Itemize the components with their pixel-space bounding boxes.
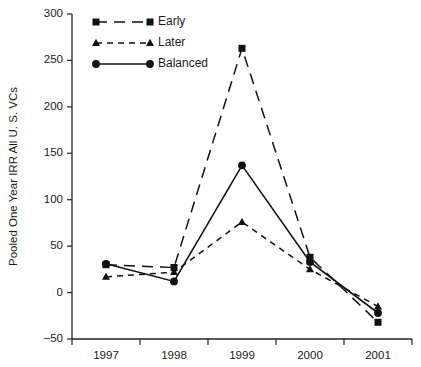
y-tick-label: 150	[44, 146, 63, 158]
data-point-marker	[239, 45, 246, 52]
legend-item-later: Later	[92, 35, 185, 49]
data-point-marker	[92, 60, 100, 68]
chart-container: −50050100150200250300 199719981999200020…	[0, 0, 421, 367]
legend-label: Later	[158, 35, 185, 49]
data-point-marker	[102, 260, 110, 268]
chart-legend: EarlyLaterBalanced	[92, 14, 208, 70]
x-tick-label: 2000	[297, 349, 323, 361]
series-line-early	[106, 48, 378, 322]
y-tick-label: 0	[57, 286, 63, 298]
data-point-marker	[93, 19, 100, 26]
series-later	[102, 218, 382, 310]
y-tick-label: 50	[50, 239, 63, 251]
x-tick-label: 1997	[93, 349, 119, 361]
axes: −50050100150200250300 199719981999200020…	[43, 7, 412, 361]
x-axis-ticks: 19971998199920002001	[72, 339, 412, 361]
y-tick-label: −50	[43, 332, 63, 344]
x-tick-label: 1998	[161, 349, 187, 361]
y-tick-label: 250	[44, 53, 63, 65]
data-point-marker	[238, 218, 246, 225]
data-point-marker	[306, 258, 314, 266]
data-point-marker	[306, 265, 314, 272]
data-point-marker	[147, 19, 154, 26]
y-tick-label: 200	[44, 100, 63, 112]
y-axis-ticks: −50050100150200250300	[43, 7, 72, 344]
series-balanced	[102, 161, 382, 316]
x-tick-label: 1999	[229, 349, 255, 361]
data-point-marker	[238, 161, 246, 169]
legend-label: Balanced	[158, 56, 208, 70]
y-tick-label: 300	[44, 7, 63, 19]
y-axis-title: Pooled One Year IRR All U. S. VCs	[7, 87, 19, 266]
series-line-later	[106, 222, 378, 307]
legend-label: Early	[158, 14, 185, 28]
y-axis-title-label: Pooled One Year IRR All U. S. VCs	[7, 87, 19, 266]
y-tick-label: 100	[44, 193, 63, 205]
legend-item-balanced: Balanced	[92, 56, 208, 70]
line-chart: −50050100150200250300 199719981999200020…	[0, 0, 421, 367]
data-series	[102, 45, 382, 326]
data-point-marker	[374, 309, 382, 317]
series-line-balanced	[106, 165, 378, 313]
data-point-marker	[375, 319, 382, 326]
legend-item-early: Early	[93, 14, 186, 28]
data-point-marker	[170, 278, 178, 286]
x-tick-label: 2001	[365, 349, 391, 361]
data-point-marker	[146, 60, 154, 68]
data-point-marker	[146, 39, 154, 46]
